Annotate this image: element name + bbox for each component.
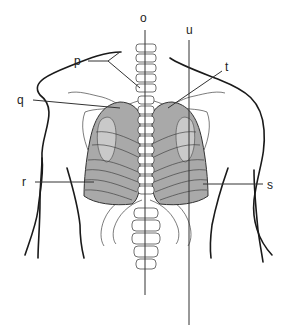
label-t: t	[225, 60, 229, 74]
label-s: s	[267, 178, 273, 192]
thorax-diagram: o p q r s t u	[0, 0, 291, 325]
label-r: r	[22, 175, 26, 189]
label-o: o	[140, 11, 147, 25]
label-q: q	[17, 93, 24, 107]
leader-t	[168, 71, 222, 108]
label-p: p	[74, 54, 81, 68]
leader-q	[33, 100, 120, 108]
leader-p2	[108, 61, 140, 88]
label-u: u	[186, 23, 193, 37]
